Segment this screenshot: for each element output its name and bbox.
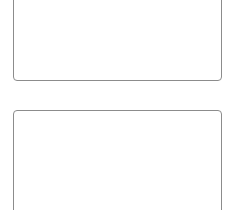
viewport	[0, 0, 238, 210]
text-area-top-content	[14, 0, 221, 80]
text-area-bottom[interactable]	[13, 110, 222, 210]
text-area-bottom-content	[14, 111, 221, 210]
text-area-top[interactable]	[13, 0, 222, 81]
